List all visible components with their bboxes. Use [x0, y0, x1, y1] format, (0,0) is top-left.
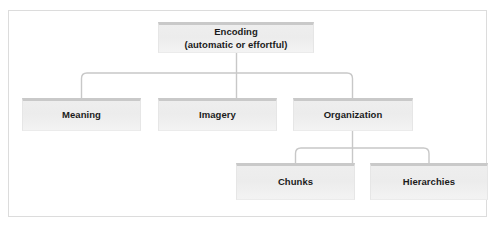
node-chunks: Chunks: [236, 163, 355, 200]
node-chunks-label: Chunks: [237, 176, 354, 189]
node-organization: Organization: [293, 98, 413, 131]
node-organization-label: Organization: [294, 109, 412, 122]
node-meaning-label: Meaning: [23, 109, 140, 122]
node-imagery: Imagery: [158, 98, 277, 131]
node-encoding-sublabel: (automatic or effortful): [159, 39, 313, 52]
node-imagery-label: Imagery: [159, 109, 276, 122]
node-hierarchies-label: Hierarchies: [371, 176, 487, 189]
node-encoding: Encoding (automatic or effortful): [158, 22, 314, 53]
encoding-hierarchy-diagram: Encoding (automatic or effortful) Meanin…: [0, 0, 498, 230]
node-hierarchies: Hierarchies: [370, 163, 488, 200]
node-encoding-label: Encoding: [159, 26, 313, 39]
node-meaning: Meaning: [22, 98, 141, 131]
